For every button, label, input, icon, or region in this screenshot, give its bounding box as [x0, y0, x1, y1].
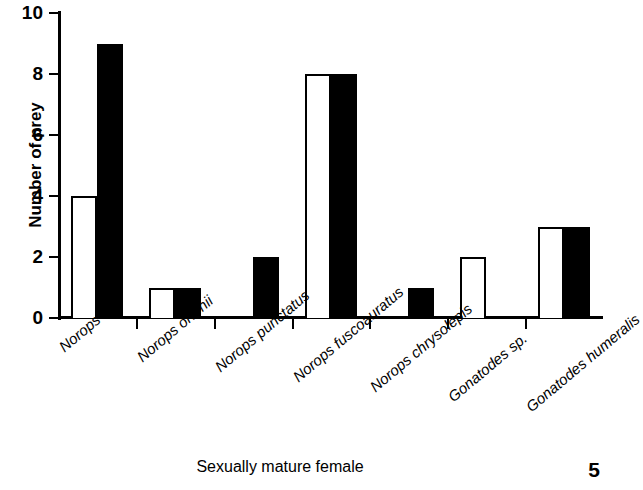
bar-open-0 — [71, 196, 97, 318]
bar-open-3 — [305, 74, 331, 318]
page-number: 5 — [588, 458, 600, 482]
x-axis-tick — [214, 319, 216, 329]
x-axis-tick — [292, 319, 294, 329]
y-axis-tick-label: 6 — [32, 124, 43, 146]
y-axis-tick-label: 2 — [32, 246, 43, 268]
y-axis-tick-label: 8 — [32, 63, 43, 85]
bar-filled-3 — [331, 74, 357, 318]
y-axis-tick-label: 10 — [22, 2, 43, 24]
y-axis-tick-label: 0 — [32, 307, 43, 329]
x-axis-tick — [136, 319, 138, 329]
bar-open-1 — [149, 288, 175, 319]
bars-layer — [58, 13, 603, 318]
bar-filled-4 — [408, 288, 434, 319]
bar-filled-0 — [97, 44, 123, 319]
x-axis-tick — [525, 319, 527, 329]
bar-open-6 — [538, 227, 564, 319]
y-axis-tick-label: 4 — [32, 185, 43, 207]
x-axis-title: Sexually mature female — [0, 458, 560, 476]
y-axis-title: Number of prey — [26, 65, 46, 265]
bar-filled-6 — [564, 227, 590, 319]
x-axis-category-label: Gonatodes sp. — [445, 329, 531, 405]
x-axis-category-label: Gonatodes humeralis — [523, 310, 643, 415]
